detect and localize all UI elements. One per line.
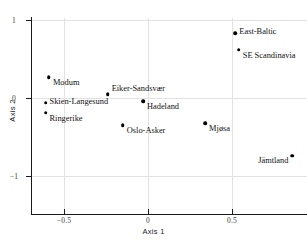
data-point[interactable] [44,101,48,105]
data-point-label: Hadeland [147,103,179,111]
data-point-label: East-Baltic [239,28,276,36]
data-point-label: Mjøsa [209,125,230,133]
y-axis-tick-label: 0 [12,94,16,103]
data-point-label: Eiker-Sandsvær [112,85,165,93]
x-axis-tick-label: 0.5 [227,216,237,225]
data-point-label: Skien-Langesund [50,97,109,105]
gridline-vertical [148,18,149,215]
data-point[interactable] [237,48,241,52]
data-point-label: Ringerike [50,115,83,123]
data-point[interactable] [291,154,295,158]
x-axis-tick [64,209,65,215]
y-axis-tick [26,176,32,177]
data-point-label: Modum [53,79,80,87]
gridline-vertical [232,18,233,215]
y-axis-title: Axis 2 [8,81,17,141]
scatter-plot: Axis 1 Axis 2 −0.500.510−1East-BalticSE … [0,0,307,242]
data-point[interactable] [44,111,48,115]
data-point-label: SE Scandinavia [243,51,296,59]
y-axis-tick-label: −1 [10,172,18,181]
x-axis-tick-label: −0.5 [57,216,71,225]
y-axis-tick-label: 1 [12,16,16,25]
data-point[interactable] [121,124,125,128]
data-point[interactable] [234,31,238,35]
data-point[interactable] [47,75,51,79]
data-point-label: Jämtland [258,157,288,165]
y-axis-tick [26,20,32,21]
y-axis-tick [26,98,32,99]
x-axis-tick [232,209,233,215]
data-point[interactable] [203,121,207,125]
gridline-horizontal [31,176,307,177]
x-axis-title: Axis 1 [0,227,307,236]
gridline-horizontal [31,20,307,21]
data-point[interactable] [106,92,110,96]
data-point-label: Oslo-Asker [127,127,166,135]
data-point[interactable] [141,99,145,103]
x-axis-tick [148,209,149,215]
x-axis-line [31,214,307,215]
x-axis-tick-label: 0 [146,216,150,225]
y-axis-line [31,17,32,215]
